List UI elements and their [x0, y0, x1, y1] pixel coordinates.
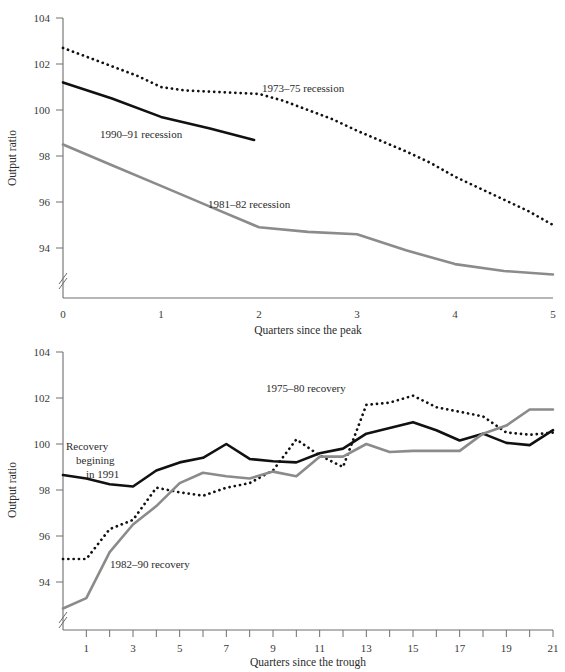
- top-xtick-label-0: 0: [60, 308, 66, 320]
- annotation-1973-75-recession: 1973–75 recession: [262, 82, 345, 94]
- bottom-xtick-label-21: 21: [548, 642, 559, 654]
- bottom-x-ticks: [86, 630, 553, 637]
- annotation-1982-90-recovery: 1982–90 recovery: [110, 558, 190, 570]
- bottom-x-tick-labels: 13579111315171921: [84, 642, 559, 654]
- bottom-ytick-label-102: 102: [34, 392, 51, 404]
- bottom-xtick-label-15: 15: [408, 642, 420, 654]
- bottom-xaxis-title: Quarters since the trough: [250, 656, 366, 669]
- bottom-xtick-label-19: 19: [501, 642, 513, 654]
- annotation-recovery-1991-line2: begining: [76, 454, 115, 466]
- annotation-recovery-1991-line3: in 1991: [86, 468, 119, 480]
- top-ytick-label-100: 100: [34, 104, 51, 116]
- top-y-ticks: [56, 18, 63, 248]
- bottom-ytick-label-94: 94: [39, 576, 51, 588]
- bottom-xtick-label-17: 17: [454, 642, 466, 654]
- series-line-1981-82-recession: [63, 145, 553, 275]
- bottom-xtick-label-7: 7: [224, 642, 230, 654]
- top-ytick-label-98: 98: [39, 150, 51, 162]
- bottom-yaxis-title: Output ratio: [6, 462, 19, 518]
- bottom-xtick-label-3: 3: [130, 642, 136, 654]
- bottom-xtick-label-1: 1: [84, 642, 90, 654]
- annotation-recovery-1991-line1: Recovery: [66, 440, 109, 452]
- series-line-recovery-1991: [63, 422, 553, 486]
- top-ytick-label-102: 102: [34, 58, 51, 70]
- bottom-ytick-label-98: 98: [39, 484, 51, 496]
- top-ytick-label-104: 104: [34, 12, 51, 24]
- annotation-1990-91-recession: 1990–91 recession: [100, 128, 183, 140]
- top-xtick-label-5: 5: [550, 308, 556, 320]
- top-chart-svg: 104 102 100 98 96 94 0 1 2 3 4 5 Quarter…: [0, 0, 565, 340]
- series-line-1982-90-recovery: [63, 410, 553, 609]
- bottom-xtick-label-13: 13: [361, 642, 373, 654]
- annotation-1981-82-recession: 1981–82 recession: [208, 198, 291, 210]
- top-yaxis-title: Output ratio: [6, 130, 19, 186]
- top-xtick-label-2: 2: [256, 308, 262, 320]
- chart-panel-top: 104 102 100 98 96 94 0 1 2 3 4 5 Quarter…: [0, 0, 565, 340]
- top-xtick-label-3: 3: [354, 308, 360, 320]
- bottom-ytick-label-100: 100: [34, 438, 51, 450]
- bottom-chart-svg: 104 102 100 98 96 94 13579111315171921 Q…: [0, 340, 565, 672]
- annotation-1975-80-recovery: 1975–80 recovery: [266, 382, 346, 394]
- top-xtick-label-4: 4: [452, 308, 458, 320]
- figure-root: 104 102 100 98 96 94 0 1 2 3 4 5 Quarter…: [0, 0, 565, 672]
- bottom-ytick-label-104: 104: [34, 346, 51, 358]
- series-line-1975-80-recovery: [63, 396, 553, 559]
- top-xtick-label-1: 1: [158, 308, 164, 320]
- bottom-ytick-label-96: 96: [39, 530, 51, 542]
- bottom-xtick-label-5: 5: [177, 642, 183, 654]
- bottom-y-ticks: [56, 352, 63, 582]
- top-xaxis-title: Quarters since the peak: [254, 324, 362, 337]
- bottom-xtick-label-9: 9: [270, 642, 276, 654]
- top-ytick-label-94: 94: [39, 242, 51, 254]
- bottom-xtick-label-11: 11: [314, 642, 325, 654]
- top-ytick-label-96: 96: [39, 196, 51, 208]
- chart-panel-bottom: 104 102 100 98 96 94 13579111315171921 Q…: [0, 340, 565, 672]
